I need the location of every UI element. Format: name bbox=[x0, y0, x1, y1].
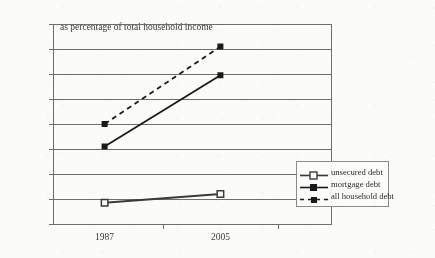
legend-key-all-household-debt-icon bbox=[300, 191, 328, 202]
data-point-marker bbox=[217, 72, 223, 78]
legend-key-unsecured-debt-icon bbox=[300, 167, 328, 178]
x-tick-mark bbox=[163, 224, 164, 229]
series-lines bbox=[53, 24, 332, 224]
legend-item: unsecured debt bbox=[300, 166, 384, 178]
chart-legend: unsecured debt mortgage debt all househo… bbox=[296, 161, 389, 207]
x-tick-label: 1987 bbox=[95, 232, 114, 242]
data-point-marker bbox=[217, 44, 223, 50]
y-tick-mark bbox=[49, 224, 53, 225]
x-tick-label: 2005 bbox=[211, 232, 230, 242]
plot-area bbox=[53, 24, 332, 224]
series-line bbox=[105, 194, 221, 203]
chart-figure: as percentage of total household income … bbox=[0, 0, 435, 258]
gridline bbox=[53, 224, 332, 225]
legend-item: mortgage debt bbox=[300, 178, 384, 190]
series-line bbox=[105, 75, 221, 146]
legend-label-mortgage-debt: mortgage debt bbox=[328, 179, 380, 189]
x-tick-mark bbox=[278, 224, 279, 229]
data-point-marker bbox=[101, 200, 108, 207]
legend-item: all household debt bbox=[300, 190, 384, 202]
data-point-marker bbox=[102, 121, 108, 127]
data-point-marker bbox=[102, 144, 108, 150]
legend-key-mortgage-debt-icon bbox=[300, 179, 328, 190]
legend-label-unsecured-debt: unsecured debt bbox=[328, 167, 383, 177]
legend-label-all-household-debt: all household debt bbox=[328, 191, 394, 201]
data-point-marker bbox=[217, 191, 224, 198]
